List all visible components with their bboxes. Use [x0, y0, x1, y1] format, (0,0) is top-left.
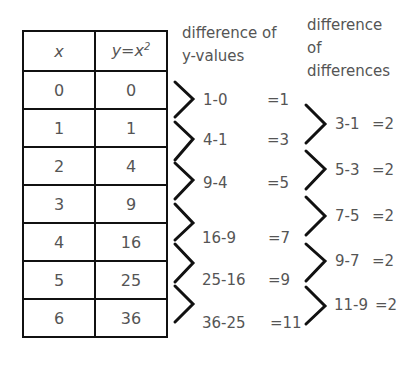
second-diff-expr: 5-3 — [335, 161, 360, 179]
brace-icon — [306, 197, 325, 235]
first-diff-expr: 25-16 — [202, 271, 246, 289]
brace-icon — [175, 244, 193, 282]
second-diff-result: =2 — [372, 161, 394, 179]
brace-icon — [175, 204, 193, 240]
first-diff-expr: 4-1 — [203, 131, 228, 149]
brace-icon — [306, 287, 325, 324]
brace-icon — [306, 244, 325, 281]
first-diff-result: =3 — [267, 131, 289, 149]
first-diff-expr: 1-0 — [203, 91, 228, 109]
first-diff-result: =11 — [270, 314, 302, 332]
brace-icon — [175, 163, 193, 199]
second-diff-result: =2 — [372, 252, 394, 270]
second-diff-expr: 9-7 — [335, 252, 360, 270]
first-diff-expr: 36-25 — [202, 314, 246, 332]
second-diff-expr: 11-9 — [334, 296, 368, 314]
first-diff-result: =1 — [267, 91, 289, 109]
second-diff-result: =2 — [372, 207, 394, 225]
brace-icon — [306, 105, 325, 143]
brace-icon — [175, 122, 193, 160]
second-diff-expr: 3-1 — [335, 115, 360, 133]
first-diff-result: =7 — [268, 229, 290, 247]
brace-icon — [175, 82, 193, 117]
first-diff-result: =5 — [267, 174, 289, 192]
first-diff-expr: 16-9 — [202, 229, 236, 247]
second-diff-expr: 7-5 — [335, 207, 360, 225]
brace-icon — [306, 151, 325, 189]
first-diff-expr: 9-4 — [203, 174, 228, 192]
first-diff-result: =9 — [268, 271, 290, 289]
brace-icon — [175, 286, 193, 322]
second-diff-result: =2 — [372, 115, 394, 133]
second-diff-result: =2 — [375, 296, 397, 314]
